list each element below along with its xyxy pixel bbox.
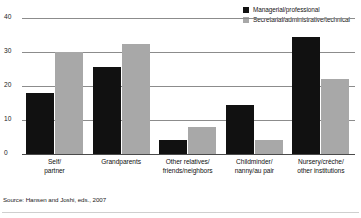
legend-item-managerial: Managerial/professional [243, 6, 361, 13]
x-axis-label: Childminder/nanny/au pair [216, 158, 293, 175]
bar [255, 140, 283, 154]
x-axis-label: Grandparents [83, 158, 160, 167]
bar-group [159, 18, 216, 154]
bar [159, 140, 187, 154]
x-axis-labels: Self/partnerGrandparentsOther relatives/… [22, 158, 355, 186]
bar-group [226, 18, 283, 154]
bars-container [22, 18, 355, 154]
bar-chart-figure: Managerial/professional Secretarial/admi… [0, 0, 361, 218]
bar [226, 105, 254, 154]
y-tick-40: 40 [4, 14, 11, 21]
legend-swatch-managerial-icon [243, 7, 249, 13]
bar [55, 52, 83, 154]
bar [188, 127, 216, 154]
x-axis-label: Nursery/crèche/other institutions [282, 158, 359, 175]
bar-group [26, 18, 83, 154]
source-note: Source: Hansen and Joshi, eds., 2007 [3, 196, 106, 203]
bar [292, 37, 320, 154]
plot-area [22, 18, 355, 154]
x-axis-label: Self/partner [16, 158, 93, 175]
bar [122, 44, 150, 155]
x-axis-label: Other relatives/friends/neighbors [149, 158, 226, 175]
y-tick-20: 20 [4, 82, 11, 89]
bar [321, 79, 349, 154]
footer-divider [2, 212, 359, 213]
legend-label-managerial: Managerial/professional [253, 6, 320, 13]
y-tick-10: 10 [4, 116, 11, 123]
bar-group [292, 18, 349, 154]
bar-group [93, 18, 150, 154]
axis-baseline [22, 154, 355, 155]
bar [93, 67, 121, 154]
y-tick-0: 0 [4, 150, 8, 157]
y-tick-30: 30 [4, 48, 11, 55]
bar [26, 93, 54, 154]
